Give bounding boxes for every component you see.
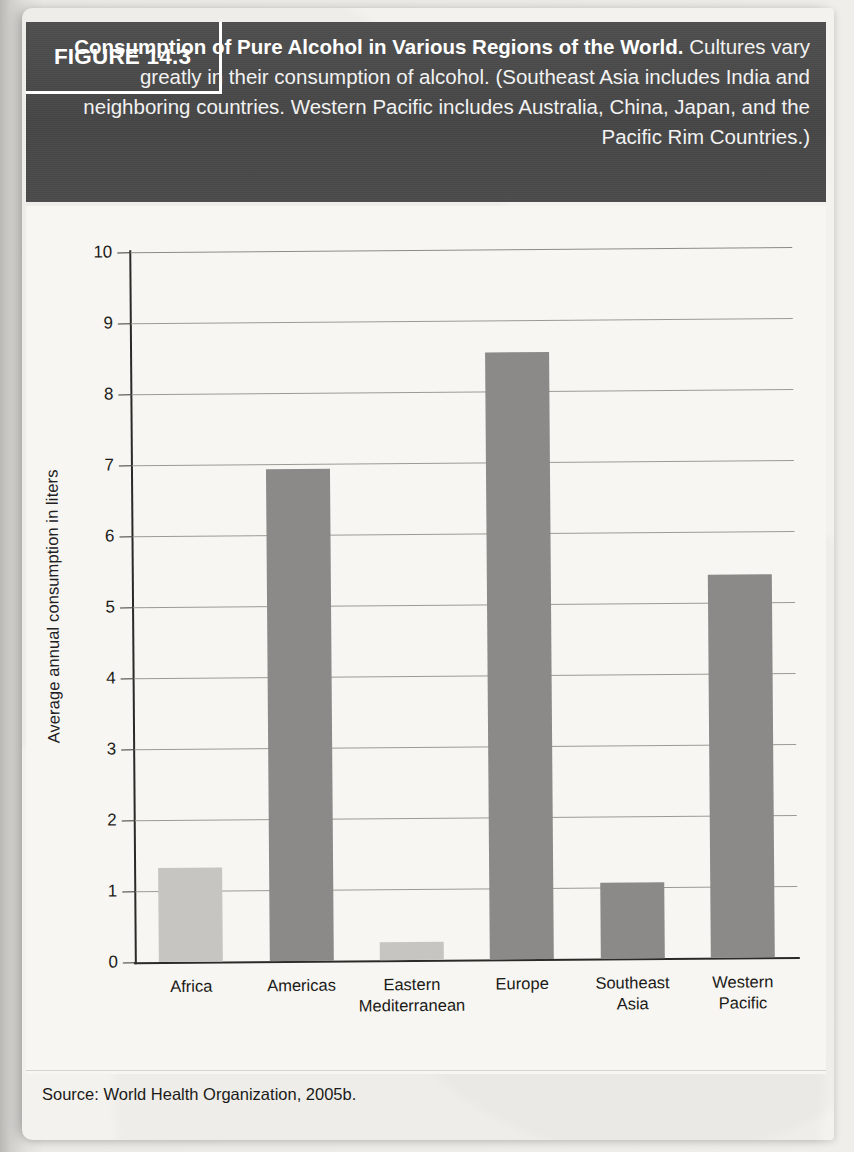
y-axis-tick	[120, 607, 133, 608]
y-axis-tick	[123, 962, 136, 963]
gridline	[131, 318, 793, 324]
y-axis-tick	[121, 678, 134, 679]
chart-panel: Average annual consumption in liters 012…	[26, 206, 826, 1074]
bar-europe	[485, 352, 554, 960]
y-axis-tick-label: 5	[106, 597, 116, 617]
y-axis-tick-label: 10	[93, 242, 112, 262]
y-axis-tick	[118, 323, 131, 324]
y-axis-tick-label: 1	[108, 881, 118, 901]
gridline	[134, 673, 796, 679]
bar-eastern-mediterranean	[380, 942, 444, 960]
y-axis-tick	[122, 891, 135, 892]
y-axis-tick-label: 2	[107, 810, 117, 830]
x-axis-tick-label: Africa	[130, 975, 252, 997]
y-axis-title: Average annual consumption in liters	[42, 346, 65, 866]
gridline	[133, 602, 795, 608]
y-axis-tick-label: 0	[108, 952, 118, 972]
scanned-page: Consumption of Pure Alcohol in Various R…	[0, 0, 854, 1152]
gridline	[135, 886, 797, 892]
bar-southeast-asia	[600, 882, 665, 958]
y-axis-tick-label: 8	[104, 384, 114, 404]
y-axis-tick-label: 3	[107, 739, 117, 759]
x-axis-tick-label: Western Pacific	[682, 971, 805, 1014]
x-axis-line	[134, 957, 800, 965]
y-axis-tick-label: 6	[105, 526, 115, 546]
source-note: Source: World Health Organization, 2005b…	[42, 1085, 356, 1104]
gridline	[135, 815, 797, 821]
figure-number-tag: FIGURE 14.3	[26, 22, 222, 94]
source-divider	[26, 1070, 826, 1071]
bar-africa	[158, 867, 223, 962]
gridline	[132, 531, 794, 537]
y-axis-tick	[122, 820, 135, 821]
gridline	[130, 247, 792, 253]
x-axis-tick-label: Europe	[461, 973, 583, 995]
gridline	[134, 744, 796, 750]
y-axis-tick	[118, 394, 131, 395]
x-axis-tick-label: Eastern Mediterranean	[351, 974, 474, 1017]
y-axis-tick	[119, 536, 132, 537]
y-axis-tick	[121, 749, 134, 750]
plot-area: 012345678910 AfricaAmericasEastern Medit…	[130, 247, 798, 962]
y-axis-tick	[117, 252, 130, 253]
bar-americas	[265, 469, 333, 962]
chart-inner: Average annual consumption in liters 012…	[22, 203, 829, 1077]
figure-caption-banner: Consumption of Pure Alcohol in Various R…	[26, 22, 826, 202]
x-axis-tick-label: Americas	[240, 975, 362, 997]
y-axis-tick-label: 7	[104, 455, 114, 475]
gridlines: 012345678910	[130, 247, 792, 252]
gridline	[132, 460, 794, 466]
bar-western-pacific	[708, 574, 775, 958]
gridline	[131, 389, 793, 395]
y-axis-tick	[119, 465, 132, 466]
y-axis-tick-label: 4	[106, 668, 116, 688]
y-axis-tick-label: 9	[103, 313, 113, 333]
x-axis-tick-label: Southeast Asia	[571, 972, 694, 1015]
